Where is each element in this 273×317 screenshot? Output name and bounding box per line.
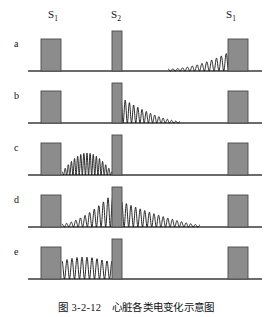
panel-e: [0, 234, 273, 286]
stimulus-block-s1-left: [41, 247, 61, 279]
stimulus-block-s2: [112, 31, 122, 71]
stimulus-block-s1-left: [41, 39, 61, 71]
panel-a: [0, 26, 273, 78]
stimulus-block-s2: [112, 83, 122, 123]
panel-c: [0, 130, 273, 182]
figure-caption: 图 3-2-12 心脏各类电变化示意图: [0, 299, 273, 314]
stimulus-block-s2: [112, 135, 122, 175]
stimulus-label-s2-middle: S2: [111, 8, 121, 23]
stimulus-block-s1-left: [41, 91, 61, 123]
stimulus-label-subscript: 1: [232, 14, 236, 23]
stimulus-label-s1-left: S1: [48, 8, 58, 23]
stimulus-block-s1-right: [228, 195, 248, 227]
stimulus-block-s1-right: [228, 91, 248, 123]
panel-b: [0, 78, 273, 130]
stimulus-block-s1-right: [228, 247, 248, 279]
stimulus-block-s1-right: [228, 143, 248, 175]
stimulus-block-s1-right: [228, 39, 248, 71]
stimulus-label-subscript: 2: [117, 14, 121, 23]
panel-d: [0, 182, 273, 234]
stimulus-block-s2: [112, 187, 122, 227]
stimulus-block-s1-left: [41, 143, 61, 175]
waveform-trace-c: [62, 153, 112, 175]
stimulus-block-s1-left: [41, 195, 61, 227]
waveform-trace-a: [168, 51, 231, 71]
waveform-trace-d: [62, 198, 200, 227]
stimulus-label-s1-right: S1: [226, 8, 236, 23]
figure-container: S1S2S1abcde图 3-2-12 心脏各类电变化示意图: [0, 0, 273, 317]
waveform-trace-e: [62, 257, 112, 279]
stimulus-label-subscript: 1: [54, 14, 58, 23]
stimulus-block-s2: [112, 239, 122, 279]
waveform-trace-b: [121, 98, 180, 124]
